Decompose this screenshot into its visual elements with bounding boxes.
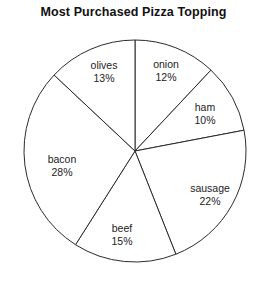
slice-label-value-onion: 12% xyxy=(153,71,179,84)
slice-label-value-olives: 13% xyxy=(91,72,118,85)
slice-label-value-ham: 10% xyxy=(194,114,215,127)
slice-label-name-sausage: sausage xyxy=(190,182,230,195)
slice-label-name-ham: ham xyxy=(194,101,215,114)
slice-label-name-beef: beef xyxy=(111,222,132,235)
slice-label-sausage: sausage22% xyxy=(190,182,230,208)
slice-label-value-beef: 15% xyxy=(111,235,132,248)
slice-label-olives: olives13% xyxy=(91,59,118,85)
slice-label-onion: onion12% xyxy=(153,58,179,84)
slice-label-name-bacon: bacon xyxy=(48,153,77,166)
slice-label-beef: beef15% xyxy=(111,222,132,248)
slice-label-value-sausage: 22% xyxy=(190,195,230,208)
slice-label-value-bacon: 28% xyxy=(48,166,77,179)
slice-label-bacon: bacon28% xyxy=(48,153,77,179)
slice-label-ham: ham10% xyxy=(194,101,215,127)
pie-chart-figure: Most Purchased Pizza Topping onion12%ham… xyxy=(0,0,267,281)
pie-slice-group xyxy=(24,40,246,262)
slice-label-name-onion: onion xyxy=(153,58,179,71)
pie-chart-canvas xyxy=(0,0,267,281)
slice-label-name-olives: olives xyxy=(91,59,118,72)
